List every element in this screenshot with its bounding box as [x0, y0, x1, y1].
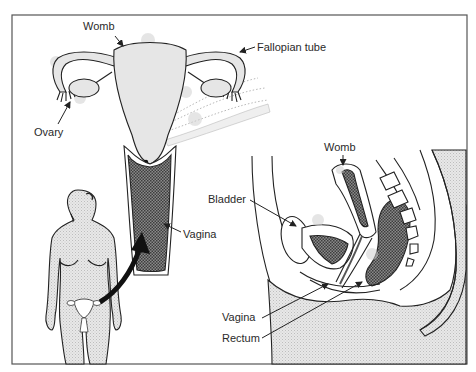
label-womb-front: Womb [83, 20, 115, 32]
label-vagina-front: Vagina [183, 228, 217, 240]
label-rectum: Rectum [222, 332, 260, 344]
label-vagina-side: Vagina [222, 311, 256, 323]
label-fallopian-tube: Fallopian tube [257, 41, 326, 53]
label-bladder: Bladder [208, 193, 246, 205]
label-ovary: Ovary [34, 126, 64, 138]
reproductive-anatomy-diagram: Womb Fallopian tube Ovary Vagina [0, 0, 476, 372]
label-womb-side: Womb [324, 141, 356, 153]
